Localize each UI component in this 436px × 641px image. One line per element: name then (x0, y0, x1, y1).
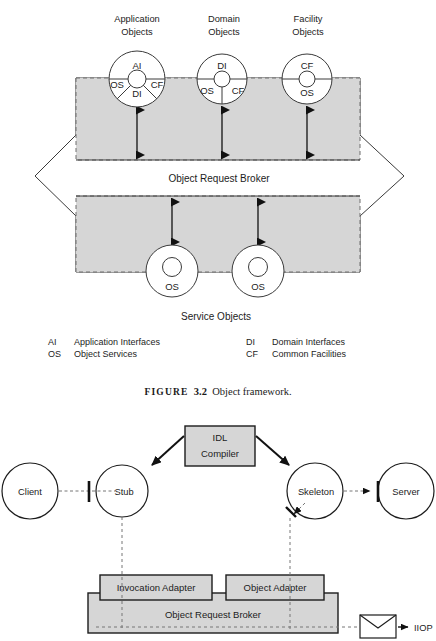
legend-table: AI Application Interfaces DI Domain Inte… (0, 336, 436, 360)
server-label: Server (392, 487, 419, 497)
service2-label: OS (251, 281, 265, 292)
service1-inner-circle (163, 258, 182, 277)
legend: AI Application Interfaces DI Domain Inte… (0, 336, 436, 384)
server-node: Server (378, 463, 434, 519)
envelope-icon (360, 615, 396, 638)
object-framework-svg: Application Objects Domain Objects Facil… (0, 0, 436, 336)
column-heading-domain: Domain Objects (208, 14, 240, 37)
legend-row: AI Application Interfaces DI Domain Inte… (0, 336, 436, 348)
app-segment-label-di: DI (132, 88, 142, 99)
arrow-idl-to-skeleton (256, 436, 289, 465)
caption-figure-word: FIGURE (144, 387, 188, 397)
legend-name-cf: Common Facilities (272, 348, 436, 360)
app-segment-label-os: OS (110, 79, 124, 90)
app-segment-label-cf: CF (151, 79, 164, 90)
legend-gap (214, 348, 246, 360)
client-label: Client (18, 487, 42, 497)
service-object-circle-2: OS (232, 245, 284, 297)
legend-name-ai: Application Interfaces (74, 336, 214, 348)
heading-application-line1: Application (114, 14, 159, 24)
legend-name-di: Domain Interfaces (272, 336, 436, 348)
legend-abbr-ai: AI (48, 336, 74, 348)
facility-segment-label-os: OS (300, 87, 314, 98)
figure-caption: FIGURE 3.2 Object framework. (0, 386, 436, 397)
domain-segment-label-cf: CF (232, 85, 245, 96)
facility-objects-circle: CF OS (282, 54, 332, 104)
domain-segment-label-di: DI (217, 60, 227, 71)
legend-gap (214, 336, 246, 348)
domain-inner-circle (214, 71, 230, 87)
heading-facility-line2: Objects (292, 27, 324, 37)
legend-abbr-os: OS (48, 348, 74, 360)
service-objects-label: Service Objects (181, 311, 251, 322)
facility-segment-label-cf: CF (301, 60, 314, 71)
app-inner-circle (128, 70, 146, 88)
app-segment-label-ai: AI (133, 60, 142, 71)
object-framework-diagram: Application Objects Domain Objects Facil… (0, 0, 436, 336)
heading-domain-line1: Domain (208, 14, 240, 24)
client-node: Client (2, 463, 58, 519)
iiop-label: IIOP (414, 623, 433, 633)
service1-label: OS (165, 281, 179, 292)
skeleton-node: Skeleton (287, 463, 343, 519)
orb-architecture-diagram: Object Request Broker Invocation Adapter… (0, 415, 436, 641)
legend-row: OS Object Services CF Common Facilities (0, 348, 436, 360)
heading-facility-line1: Facility (294, 14, 323, 24)
legend-name-os: Object Services (74, 348, 214, 360)
service-object-circle-1: OS (146, 245, 198, 297)
figure-page: Application Objects Domain Objects Facil… (0, 0, 436, 641)
application-objects-circle: AI OS CF DI (109, 51, 165, 107)
legend-abbr-di: DI (246, 336, 272, 348)
orb-architecture-svg: Object Request Broker Invocation Adapter… (0, 415, 436, 641)
column-heading-application: Application Objects (114, 14, 159, 37)
stub-label: Stub (114, 487, 133, 497)
idl-compiler-label-line2: Compiler (201, 448, 239, 459)
heading-application-line2: Objects (121, 27, 153, 37)
skeleton-label: Skeleton (298, 487, 334, 497)
domain-segment-label-os: OS (200, 85, 214, 96)
legend-abbr-cf: CF (246, 348, 272, 360)
orb-box-label: Object Request Broker (165, 609, 261, 620)
facility-inner-circle (299, 71, 315, 87)
orb-label: Object Request Broker (168, 173, 270, 184)
caption-title: Object framework. (212, 386, 291, 397)
idl-compiler-label-line1: IDL (213, 432, 228, 443)
lower-panel (76, 196, 360, 272)
column-heading-facility: Facility Objects (292, 14, 324, 37)
service2-inner-circle (249, 258, 268, 277)
domain-objects-circle: DI OS CF (197, 54, 247, 104)
arrow-idl-to-stub (152, 436, 184, 465)
legend-spacer (0, 336, 48, 348)
heading-domain-line2: Objects (208, 27, 240, 37)
legend-spacer (0, 348, 48, 360)
object-adapter-label: Object Adapter (244, 582, 307, 593)
invocation-adapter-label: Invocation Adapter (117, 582, 196, 593)
caption-figure-number: 3.2 (194, 386, 207, 397)
